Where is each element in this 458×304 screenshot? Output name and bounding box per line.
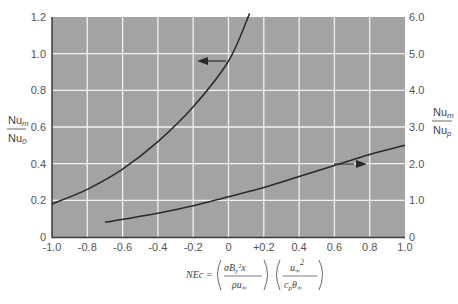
svg-text:Num: Num [433, 106, 454, 120]
x-tick-label: -0.4 [148, 241, 167, 253]
y-left-tick-label: 1.0 [31, 48, 46, 60]
y-left-tick-label: 0.8 [31, 84, 46, 96]
x-tick-label: 0 [225, 241, 231, 253]
x-tick-label: 0.8 [362, 241, 377, 253]
x-axis-ticks: -1.0-0.8-0.6-0.4-0.20+0.20.40.60.81.0 [43, 241, 413, 253]
y-axis-right-label: Num Nup [432, 106, 454, 138]
svg-text:cpθ∞: cpθ∞ [284, 279, 302, 292]
y-left-tick-label: 0 [40, 231, 46, 243]
y-left-tick-label: 1.2 [31, 11, 46, 23]
svg-text:Nup: Nup [433, 124, 452, 138]
y-right-tick-label: 4.0 [409, 84, 424, 96]
x-axis-label-formula: NEc = σBy²x ρu∞ u∞2 cpθ∞ [185, 258, 323, 292]
svg-text:NEc =: NEc = [185, 269, 212, 280]
y-left-tick-label: 0.6 [31, 121, 46, 133]
x-tick-label: -0.8 [78, 241, 97, 253]
svg-text:ρu∞: ρu∞ [231, 279, 247, 292]
y-right-tick-label: 1.0 [409, 194, 424, 206]
chart: -1.0-0.8-0.6-0.4-0.20+0.20.40.60.81.0 00… [0, 0, 458, 304]
x-tick-label: +0.2 [253, 241, 275, 253]
x-tick-label: 0.6 [327, 241, 342, 253]
y-axis-left-ticks: 00.20.40.60.81.01.2 [31, 11, 46, 243]
svg-text:σBy²x: σBy²x [224, 262, 246, 275]
y-right-tick-label: 6.0 [409, 11, 424, 23]
y-left-tick-label: 0.4 [31, 158, 46, 170]
y-right-tick-label: 0 [409, 231, 415, 243]
y-right-tick-label: 2.0 [409, 158, 424, 170]
svg-text:Nu0: Nu0 [8, 132, 27, 146]
y-left-tick-label: 0.2 [31, 194, 46, 206]
y-right-tick-label: 5.0 [409, 48, 424, 60]
x-tick-label: 0.4 [291, 241, 306, 253]
svg-text:u∞2: u∞2 [290, 258, 304, 275]
x-tick-label: -0.2 [184, 241, 203, 253]
x-tick-label: -0.6 [113, 241, 132, 253]
y-right-tick-label: 3.0 [409, 121, 424, 133]
svg-text:Num: Num [8, 114, 29, 128]
y-axis-left-label: Num Nu0 [7, 114, 29, 146]
y-axis-right-ticks: 01.02.03.04.05.06.0 [409, 11, 424, 243]
